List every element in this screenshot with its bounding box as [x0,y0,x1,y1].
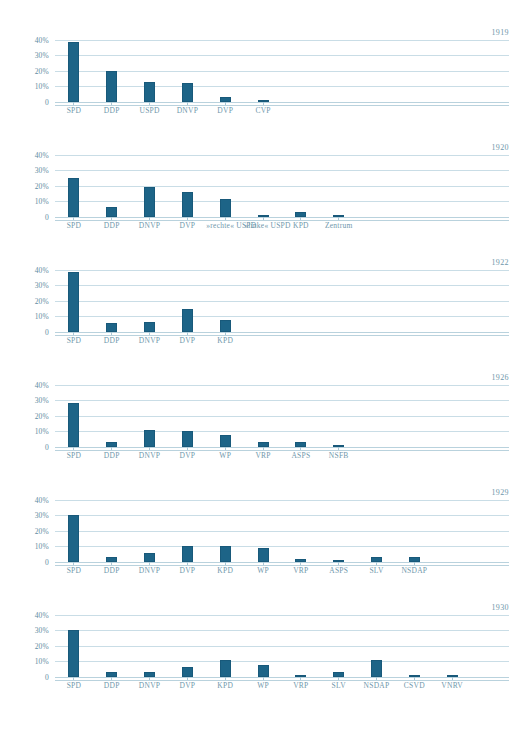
bar-cell [93,607,131,677]
bar[interactable] [106,323,117,332]
bar-cell [55,147,93,217]
x-axis-tick [73,102,74,105]
plot-area: 40%30%20%10%0SPDDDPUSPDDNVPDVPCVP [55,32,509,102]
gridline [55,447,509,448]
x-axis-category-label: ASPS [320,566,358,575]
x-axis-tick [73,677,74,680]
x-axis-category-label: DDP [93,681,131,690]
x-axis-tick [111,332,112,335]
bar[interactable] [68,42,79,102]
x-axis-category-label: SPD [55,221,93,230]
bar[interactable] [220,546,231,562]
x-axis-category-label: »linke« USPD [244,221,282,230]
x-axis-tick [73,447,74,450]
x-axis-tick [338,447,339,450]
y-axis-tick-label: 10% [35,427,49,436]
bar[interactable] [68,630,79,677]
x-axis-tick [149,447,150,450]
x-axis-category-label: SPD [55,681,93,690]
y-axis-tick-label: 20% [35,526,49,535]
bar-cell [55,262,93,332]
bar[interactable] [68,515,79,562]
bar[interactable] [182,192,193,217]
x-axis-category-label: KPD [206,336,244,345]
x-axis-category-label: CVP [244,106,282,115]
bar[interactable] [182,309,193,332]
x-axis-labels: SPDDDPDNVPDVPKPDWPVRPSLVNSDAPCSVDVNRV [55,681,509,690]
x-axis-tick [300,562,301,565]
x-axis-category-label: NSDAP [358,681,396,690]
x-axis-tick [187,102,188,105]
y-axis-tick-label: 40% [35,265,49,274]
x-axis-category-label: ASPS [282,451,320,460]
bar-group [55,32,509,102]
x-axis-category-label: DVP [168,566,206,575]
bar[interactable] [220,320,231,332]
x-axis-category-label: SPD [55,451,93,460]
y-axis-tick-label: 0 [45,673,49,682]
x-axis-tick [187,447,188,450]
x-axis-tick [225,562,226,565]
bar[interactable] [220,660,231,677]
bar[interactable] [258,548,269,562]
bar-cell [282,377,320,447]
bar[interactable] [182,83,193,102]
y-axis-tick-label: 20% [35,181,49,190]
bar[interactable] [258,665,269,677]
bar-cell [282,607,320,677]
x-axis-category-label: DVP [206,106,244,115]
y-axis-tick-label: 10% [35,197,49,206]
chart-year-label: 1930 [491,603,509,612]
y-axis-tick-label: 30% [35,166,49,175]
x-axis-category-label: KPD [206,681,244,690]
bar[interactable] [220,199,231,217]
bar-cell [93,147,131,217]
bar[interactable] [220,435,231,447]
x-axis-tick [225,217,226,220]
chart-panel: 40%30%20%10%0SPDDDPDNVPDVPKPDWPVRPASPSSL… [0,482,524,582]
bar[interactable] [106,207,117,217]
x-axis-tick [149,677,150,680]
bar[interactable] [68,403,79,447]
bar[interactable] [68,272,79,332]
x-axis-category-label: NSFB [320,451,358,460]
x-axis-category-label: DVP [168,451,206,460]
x-axis-category-label: SPD [55,336,93,345]
bar[interactable] [144,430,155,447]
x-axis-category-label: Zentrum [320,221,358,230]
y-axis-tick-label: 0 [45,558,49,567]
chart-panel: 40%30%20%10%0SPDDDPDNVPDVPWPVRPASPSNSFB1… [0,367,524,467]
bar[interactable] [182,546,193,562]
bar[interactable] [371,660,382,677]
chart-panel: 40%30%20%10%0SPDDDPUSPDDNVPDVPCVP1919 [0,22,524,122]
bar-cell [93,492,131,562]
plot-area: 40%30%20%10%0SPDDDPDNVPDVPKPDWPVRPSLVNSD… [55,607,509,677]
gridline [55,562,509,563]
bar[interactable] [144,322,155,332]
x-axis-tick [73,562,74,565]
bar-cell [244,492,282,562]
bar-cell [358,492,396,562]
x-axis-tick [263,102,264,105]
chart-panel: 40%30%20%10%0SPDDDPDNVPDVP»rechte« USPD»… [0,137,524,237]
bar[interactable] [144,82,155,102]
bar-cell [131,607,169,677]
bar[interactable] [182,667,193,677]
bar[interactable] [106,71,117,102]
plot-area: 40%30%20%10%0SPDDDPDNVPDVPKPD [55,262,509,332]
y-axis-tick-label: 40% [35,150,49,159]
bar[interactable] [144,553,155,562]
y-axis-tick-label: 30% [35,626,49,635]
x-axis-category-label: SLV [358,566,396,575]
bar-cell [206,262,244,332]
x-axis-tick [263,677,264,680]
bar-cell [131,32,169,102]
gridline [55,332,509,333]
bar[interactable] [68,178,79,217]
x-axis-tick [73,217,74,220]
bar[interactable] [144,187,155,217]
bar-cell [55,377,93,447]
bar[interactable] [182,431,193,447]
x-axis-category-label: KPD [282,221,320,230]
x-axis-category-label: VRP [282,566,320,575]
